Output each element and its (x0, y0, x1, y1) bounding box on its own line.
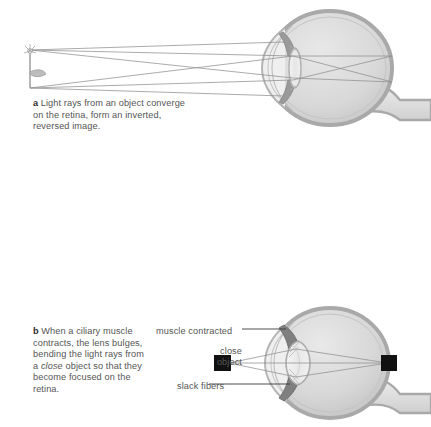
eyeball-globe (268, 11, 392, 125)
panel-a: aLight rays from an object converge on t… (0, 0, 431, 150)
caption-a-lead: a (33, 98, 38, 108)
caption-a: aLight rays from an object converge on t… (33, 98, 198, 133)
panel-b: bWhen a ciliary muscle contracts, the le… (0, 150, 431, 287)
eye-accommodation-figure: aLight rays from an object converge on t… (0, 0, 431, 427)
caption-a-text: Light rays from an object converge on th… (33, 98, 185, 131)
panel-c: cWhen the muscle relaxes, the lens flatt… (0, 287, 431, 427)
lens (289, 48, 301, 88)
